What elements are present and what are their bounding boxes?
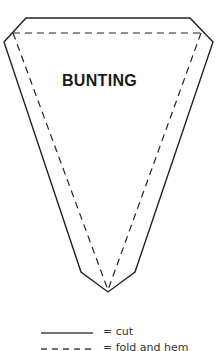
- legend-cut-label: = cut: [103, 325, 133, 338]
- diagram-title: BUNTING: [62, 72, 146, 90]
- cut-outline: [4, 18, 213, 292]
- bunting-diagram: [0, 0, 216, 351]
- legend-fold-label: = fold and hem: [103, 341, 189, 351]
